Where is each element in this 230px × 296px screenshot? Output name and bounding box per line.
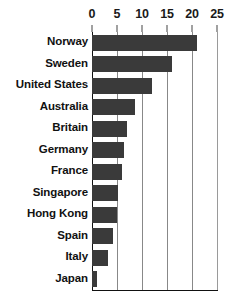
bar: [92, 78, 152, 94]
bar: [92, 207, 117, 223]
x-tick-mark: [117, 25, 118, 32]
category-label: Hong Kong: [0, 207, 88, 220]
x-axis: 0510152025: [0, 0, 230, 33]
bar-row: [92, 75, 217, 97]
category-label: Italy: [0, 250, 88, 263]
bar-row: [92, 269, 217, 291]
category-label: Norway: [0, 35, 88, 48]
bar-row: [92, 97, 217, 119]
x-tick-label: 15: [160, 8, 174, 21]
bars-layer: [92, 32, 217, 290]
bar-row: [92, 54, 217, 76]
category-label: United States: [0, 78, 88, 91]
x-tick-label: 5: [114, 8, 121, 21]
bar: [92, 56, 172, 72]
bar: [92, 164, 122, 180]
bar-row: [92, 247, 217, 269]
bar: [92, 250, 108, 266]
bar-chart: 0510152025 NorwaySwedenUnited StatesAust…: [0, 0, 230, 296]
bar: [92, 121, 127, 137]
category-labels: NorwaySwedenUnited StatesAustraliaBritai…: [0, 32, 88, 290]
bar: [92, 35, 197, 51]
bar: [92, 271, 97, 287]
category-label: Sweden: [0, 57, 88, 70]
gridline: [217, 32, 218, 290]
bar-row: [92, 32, 217, 54]
bar-row: [92, 183, 217, 205]
bar: [92, 185, 118, 201]
category-label: France: [0, 164, 88, 177]
bar: [92, 142, 124, 158]
category-label: Australia: [0, 100, 88, 113]
bar: [92, 99, 135, 115]
x-tick-label: 25: [210, 8, 224, 21]
x-tick-mark: [142, 25, 143, 32]
bar-row: [92, 118, 217, 140]
x-tick-label: 20: [185, 8, 199, 21]
category-label: Singapore: [0, 186, 88, 199]
x-tick-mark: [92, 25, 93, 32]
x-tick-label: 0: [89, 8, 96, 21]
bar-row: [92, 226, 217, 248]
bar-row: [92, 140, 217, 162]
category-label: Germany: [0, 143, 88, 156]
category-label: Spain: [0, 229, 88, 242]
bar-row: [92, 161, 217, 183]
x-tick-label: 10: [135, 8, 149, 21]
x-tick-mark: [167, 25, 168, 32]
bar: [92, 228, 113, 244]
bar-row: [92, 204, 217, 226]
x-tick-mark: [192, 25, 193, 32]
category-label: Britain: [0, 121, 88, 134]
category-label: Japan: [0, 272, 88, 285]
x-tick-mark: [217, 25, 218, 32]
